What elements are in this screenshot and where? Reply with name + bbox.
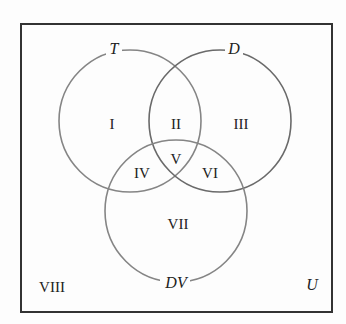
region-label-viii: VIII [39,279,65,295]
region-label-vii: VII [168,216,189,232]
universe-label: U [306,276,319,293]
venn-diagram: T D DV U I II III IV V VI VII VIII [0,0,346,324]
region-label-v: V [171,151,182,167]
region-label-iv: IV [134,165,150,181]
set-label-d: D [227,40,240,57]
region-label-ii: II [171,116,181,132]
region-label-i: I [110,116,115,132]
set-label-dv: DV [164,274,189,291]
region-label-iii: III [234,116,249,132]
set-label-t: T [110,40,120,57]
region-label-vi: VI [202,165,218,181]
